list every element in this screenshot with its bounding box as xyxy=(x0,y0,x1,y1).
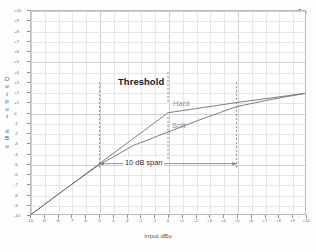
y-tick xyxy=(27,92,30,93)
y-tick xyxy=(27,10,30,11)
curves-layer xyxy=(31,11,305,215)
y-tick-label: +10 xyxy=(14,8,21,13)
x-tick-label: +7 xyxy=(262,218,267,223)
span-arrowhead-right xyxy=(232,162,236,165)
y-axis-title-letter: B xyxy=(2,134,12,141)
threshold-annotation: Threshold xyxy=(118,76,164,87)
y-tick-label: +5 xyxy=(14,59,19,64)
y-axis-title-letter: p xyxy=(2,97,12,104)
y-tick-label: +9 xyxy=(14,18,19,23)
y-tick-label: +2 xyxy=(14,90,19,95)
y-tick xyxy=(27,51,30,52)
y-axis-title-letter: u xyxy=(2,142,12,149)
x-tick-label: -5 xyxy=(97,218,101,223)
x-tick-label: +4 xyxy=(221,218,226,223)
chart-figure: Ap Output dBu Input dBu -10-9-8-7-6-5-4-… xyxy=(0,0,316,252)
x-tick-label: -3 xyxy=(125,218,129,223)
x-tick-label: -7 xyxy=(70,218,74,223)
y-tick xyxy=(27,82,30,83)
y-tick-label: -3 xyxy=(14,141,18,146)
hard-knee-label: Hard xyxy=(173,99,189,108)
x-tick-label: -10 xyxy=(27,218,33,223)
y-tick-label: -10 xyxy=(14,213,20,218)
y-axis-title-letter: u xyxy=(2,105,12,112)
plot-area xyxy=(30,10,306,215)
y-axis-title-letter: t xyxy=(2,90,12,97)
y-tick xyxy=(27,123,30,124)
y-tick xyxy=(27,133,30,134)
y-tick-label: -6 xyxy=(14,172,18,177)
y-axis-title-letter: t xyxy=(2,112,12,119)
x-tick-label: +2 xyxy=(193,218,198,223)
x-tick-label: +6 xyxy=(248,218,253,223)
span-annotation: 10 dB span xyxy=(123,158,164,167)
y-tick-label: -8 xyxy=(14,192,18,197)
x-axis-title: Input dBu xyxy=(0,232,316,239)
y-tick-label: -5 xyxy=(14,161,18,166)
y-tick xyxy=(27,102,30,103)
y-tick-label: -4 xyxy=(14,151,18,156)
y-tick-label: +7 xyxy=(14,38,19,43)
y-tick xyxy=(27,113,30,114)
x-tick-label: -1 xyxy=(152,218,156,223)
y-tick xyxy=(27,143,30,144)
x-tick-label: +5 xyxy=(235,218,240,223)
y-tick xyxy=(27,154,30,155)
y-tick-label: +3 xyxy=(14,79,19,84)
y-tick-label: -1 xyxy=(14,120,18,125)
x-tick-label: +1 xyxy=(179,218,184,223)
y-tick xyxy=(27,20,30,21)
y-tick-label: +4 xyxy=(14,69,19,74)
x-tick-label: -8 xyxy=(56,218,60,223)
x-tick-label: +10 xyxy=(302,218,309,223)
x-tick-label: +8 xyxy=(276,218,281,223)
y-axis-title-letter xyxy=(2,119,12,126)
y-tick-label: -7 xyxy=(14,182,18,187)
y-tick xyxy=(27,31,30,32)
y-tick xyxy=(27,205,30,206)
x-tick-label: -9 xyxy=(42,218,46,223)
y-tick xyxy=(27,72,30,73)
y-tick xyxy=(27,164,30,165)
x-tick-label: +9 xyxy=(290,218,295,223)
y-tick xyxy=(27,41,30,42)
x-tick-label: -6 xyxy=(83,218,87,223)
y-axis-title-letter: d xyxy=(2,127,12,134)
y-tick-label: +8 xyxy=(14,28,19,33)
x-tick-label: -2 xyxy=(139,218,143,223)
soft-knee-label: Soft xyxy=(172,121,186,130)
y-tick xyxy=(27,184,30,185)
y-axis-title-letter: O xyxy=(2,75,12,82)
x-tick-label: +3 xyxy=(207,218,212,223)
y-tick-label: 0 xyxy=(14,110,16,115)
y-tick xyxy=(27,174,30,175)
y-tick-label: +6 xyxy=(14,49,19,54)
y-tick xyxy=(27,215,30,216)
y-axis-title: Output dBu xyxy=(2,75,12,149)
x-tick-label: 0 xyxy=(167,218,169,223)
y-tick-label: -9 xyxy=(14,202,18,207)
y-tick-label: +1 xyxy=(14,100,19,105)
y-tick-label: -2 xyxy=(14,131,18,136)
y-tick xyxy=(27,195,30,196)
y-tick xyxy=(27,61,30,62)
y-axis-title-letter: u xyxy=(2,82,12,89)
x-tick-label: -4 xyxy=(111,218,115,223)
